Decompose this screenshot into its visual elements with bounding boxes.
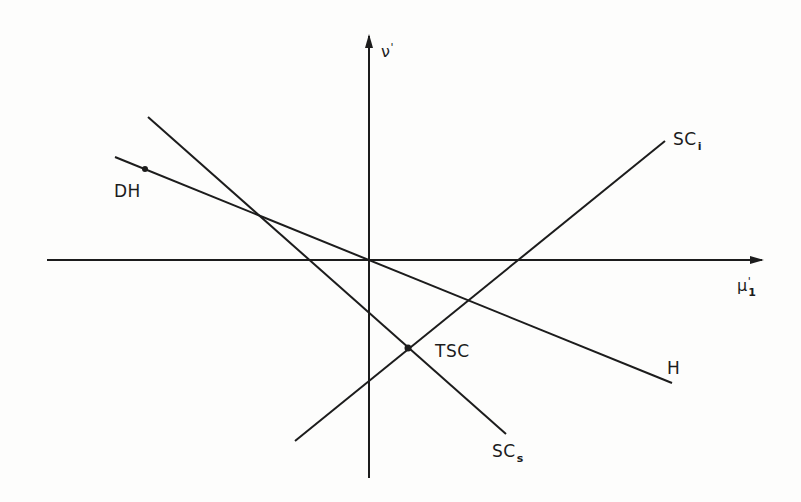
x-axis-label: μ'1 bbox=[737, 278, 756, 294]
x-axis-label-sub: 1 bbox=[748, 286, 756, 299]
y-axis-label: ν' bbox=[381, 44, 394, 60]
tsc-label: TSC bbox=[435, 343, 470, 360]
sc-s-label-base: SC bbox=[492, 441, 516, 461]
diagram-svg bbox=[0, 0, 801, 502]
h-line bbox=[115, 157, 672, 383]
sc-i-line bbox=[295, 141, 665, 441]
sc-i-label-sub: i bbox=[698, 140, 702, 153]
dh-point bbox=[142, 166, 148, 172]
sc-i-label-base: SC bbox=[673, 129, 697, 149]
sc-i-label: SCi bbox=[673, 131, 702, 148]
dh-label: DH bbox=[114, 183, 141, 200]
y-axis-label-prime: ' bbox=[390, 41, 394, 54]
sc-s-label: SCs bbox=[492, 443, 524, 460]
sc-s-label-sub: s bbox=[517, 452, 524, 465]
x-axis-label-base: μ bbox=[737, 276, 748, 295]
diagram-canvas: ν' μ'1 DH H SCi SCs TSC bbox=[0, 0, 801, 502]
h-label: H bbox=[667, 360, 680, 377]
sc-s-line bbox=[148, 117, 506, 434]
tsc-point bbox=[405, 345, 412, 352]
